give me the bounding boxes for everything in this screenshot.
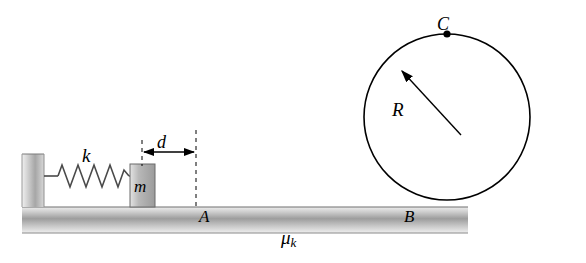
ground-surface xyxy=(22,207,468,233)
label-radius: R xyxy=(392,100,404,119)
label-point-a: A xyxy=(199,208,209,225)
label-point-c: C xyxy=(437,15,449,33)
spring xyxy=(44,165,131,187)
label-compression-distance: d xyxy=(157,133,166,151)
friction-symbol: μ xyxy=(281,227,291,248)
label-spring-constant: k xyxy=(82,146,90,165)
loop-circle xyxy=(364,34,530,200)
radius-arrow xyxy=(402,71,461,135)
left-wall xyxy=(22,154,44,207)
label-mass: m xyxy=(134,178,146,195)
label-kinetic-friction: μk xyxy=(281,228,296,249)
friction-subscript: k xyxy=(291,235,297,250)
label-point-b: B xyxy=(404,208,414,225)
diagram-canvas xyxy=(0,0,586,263)
physics-diagram: k d m A B C R μk xyxy=(0,0,586,263)
